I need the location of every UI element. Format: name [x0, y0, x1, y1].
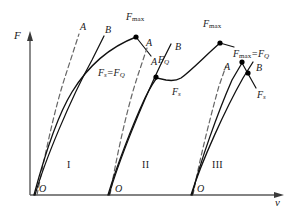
group-II-fq-subscript: Q — [164, 58, 169, 66]
group-I-roman-numeral: I — [67, 160, 71, 170]
group-III-crossing-marker — [245, 70, 250, 75]
group-III-curve-b-solid — [191, 62, 253, 195]
group-II-fs-label: Fs — [172, 87, 181, 98]
group-I-curves — [34, 34, 151, 195]
group-III-fs-label: Fs — [257, 90, 266, 101]
group-III-origin-label: O — [197, 184, 204, 194]
group-I-fmax-subscript: max — [132, 15, 144, 23]
velocity-axis-label: v — [275, 197, 280, 208]
group-II-fmax-subscript: max — [209, 22, 221, 30]
group-I-origin-label: O — [39, 184, 46, 194]
group-II-fmax-marker — [217, 40, 222, 45]
group-III-eq-sign: = — [251, 48, 258, 59]
group-III-curves — [191, 59, 256, 195]
force-axis-label: F — [14, 30, 21, 41]
group-III-fmax-eq-fq-label: Fmax=FQ — [233, 49, 269, 60]
group-I-fmax-label: Fmax — [126, 12, 144, 23]
group-II-fmax-label: Fmax — [203, 19, 221, 30]
group-II-fq-label: FQ — [158, 55, 169, 66]
group-II-curves — [108, 40, 234, 195]
group-III-roman-numeral: III — [212, 160, 223, 170]
group-II-roman-numeral: II — [142, 160, 149, 170]
group-III-fs-subscript: s — [263, 93, 266, 101]
group-II-curve-a-label: A — [146, 38, 152, 48]
group-II-curve-b-label: B — [175, 42, 181, 52]
group-I-curve-b-label: B — [105, 25, 111, 35]
group-III-curve-a-label: A — [224, 62, 230, 72]
group-I-curve-a-label: A — [80, 22, 86, 32]
group-I-fs-eq-fq-label: Fs=FQ — [98, 68, 125, 79]
group-III-curve-b-label: B — [256, 63, 262, 73]
force-axis-arrowhead — [27, 31, 33, 41]
group-I-eq-sign: = — [107, 67, 114, 78]
group-III-fq-subscript: Q — [264, 52, 269, 60]
group-III-fmax-subscript: max — [239, 52, 251, 60]
group-I-curve-b-line — [35, 36, 104, 195]
group-I-curve-b-main — [34, 37, 136, 195]
group-I-fq-subscript: Q — [120, 71, 125, 79]
group-II-fs-subscript: s — [178, 90, 181, 98]
group-I-fmax-marker — [133, 34, 138, 39]
group-II-fq-marker — [153, 74, 158, 79]
force-velocity-figure: F v A B Fmax A Fs=FQ I O A B Fmax FQ Fs … — [0, 0, 294, 221]
group-I-tail-label: A — [151, 57, 157, 67]
group-II-origin-label: O — [115, 184, 122, 194]
